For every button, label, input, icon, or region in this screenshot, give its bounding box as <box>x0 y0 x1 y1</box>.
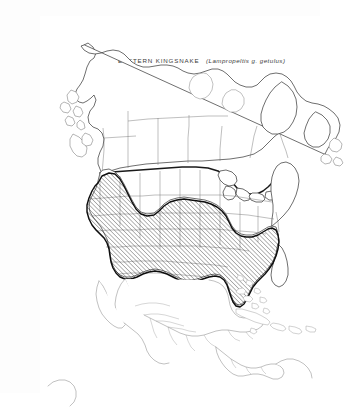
range-map-figure: EASTERN KINGSNAKE (Lampropeltis g. getul… <box>40 16 348 409</box>
map-title-text: EASTERN KINGSNAKE (Lampropeltis g. getul… <box>118 57 285 64</box>
title-scientific-name: (Lampropeltis g. getulus) <box>206 57 285 64</box>
map-title-group: EASTERN KINGSNAKE (Lampropeltis g. getul… <box>118 57 285 64</box>
north-america-range-map: EASTERN KINGSNAKE (Lampropeltis g. getul… <box>40 16 348 409</box>
